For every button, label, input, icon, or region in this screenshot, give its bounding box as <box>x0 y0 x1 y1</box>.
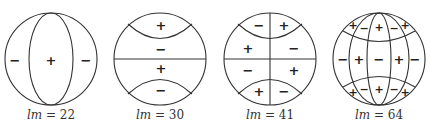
sign-label: − <box>243 64 254 77</box>
sign-label: − <box>410 53 421 66</box>
sign-label: + <box>156 62 167 75</box>
sign-label: + <box>254 85 265 98</box>
sign-label: − <box>81 54 92 67</box>
sign-label: − <box>254 19 265 32</box>
sign-label: + <box>374 84 383 95</box>
sign-label: − <box>338 53 349 66</box>
sign-label: + <box>394 53 405 66</box>
caption-variable: lm <box>246 108 261 122</box>
caption-variable: lm <box>27 108 42 122</box>
sign-label: − <box>279 85 290 98</box>
sign-label: + <box>279 19 290 32</box>
sign-label: − <box>289 42 300 55</box>
sign-label: + <box>348 87 357 98</box>
caption-value: = 41 <box>261 108 294 122</box>
sign-label: + <box>348 20 357 31</box>
caption-variable: lm <box>136 108 151 122</box>
caption-value: = 30 <box>151 108 184 122</box>
sign-label: + <box>243 42 254 55</box>
sign-label: − <box>359 23 368 34</box>
sign-label: + <box>400 87 409 98</box>
sign-label: − <box>389 84 398 95</box>
caption-value: = 22 <box>42 108 75 122</box>
caption-lm64: lm = 64 <box>329 108 429 122</box>
sign-label: − <box>374 53 385 66</box>
caption-lm41: lm = 41 <box>220 108 320 122</box>
sign-label: + <box>156 19 167 32</box>
caption-variable: lm <box>355 108 370 122</box>
sign-label: + <box>46 54 57 67</box>
sphere-lm41 <box>224 13 316 105</box>
sign-label: − <box>156 43 167 56</box>
sign-label: + <box>400 20 409 31</box>
sign-label: − <box>359 84 368 95</box>
caption-lm22: lm = 22 <box>1 108 101 122</box>
sign-label: − <box>389 23 398 34</box>
caption-value: = 64 <box>370 108 403 122</box>
sign-label: − <box>10 54 21 67</box>
caption-lm30: lm = 30 <box>110 108 210 122</box>
sign-label: + <box>354 53 365 66</box>
sign-label: − <box>156 84 167 97</box>
sign-label: + <box>374 22 383 33</box>
sign-label: + <box>289 64 300 77</box>
